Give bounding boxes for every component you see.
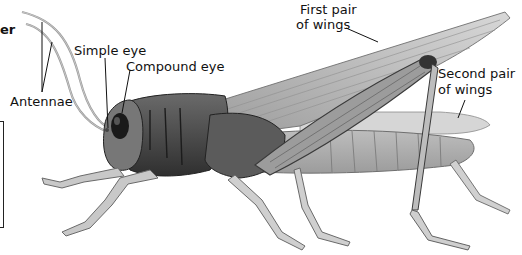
label-second-wings-line2: of wings [438,82,492,97]
label-second-wings-line1: Second pair [438,66,515,81]
antennae-shape [22,12,110,132]
front-legs-shape [42,168,158,236]
label-first-wings-line1: First pair [300,2,357,17]
label-first-wings-line2: of wings [296,17,350,32]
compound-eye-shape [111,113,129,139]
simple-eye-shape [105,128,109,132]
diagram-canvas: er Antennae Simple eye Compound eye Firs… [0,0,522,255]
middle-leg-shape [228,168,350,250]
cropped-heading-fragment: er [0,22,15,37]
grasshopper-illustration [0,0,522,255]
label-antennae: Antennae [10,94,73,109]
label-simple-eye: Simple eye [74,43,146,58]
label-compound-eye: Compound eye [126,59,224,74]
